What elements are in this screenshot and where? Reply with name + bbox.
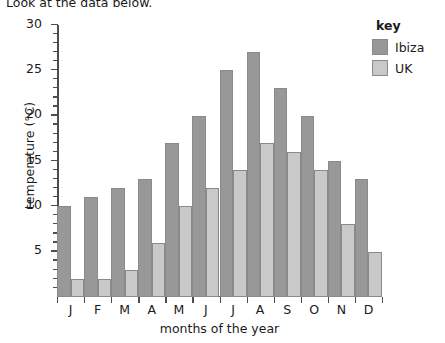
x-axis-title: months of the year [57, 321, 382, 336]
bar-uk-august [260, 143, 274, 297]
bar-ibiza-september [274, 88, 288, 297]
bar-uk-july [233, 170, 247, 297]
x-label-november: N [328, 302, 355, 317]
x-axis-labels: JFMAMJJASOND [57, 302, 382, 320]
bar-uk-december [368, 252, 382, 297]
legend-entries: IbizaUK [372, 39, 445, 76]
bar-ibiza-december [355, 179, 369, 297]
legend-item-uk: UK [372, 60, 445, 76]
plot-area: 51015202530 [57, 25, 382, 297]
bar-uk-february [98, 279, 112, 297]
x-label-may: M [165, 302, 192, 317]
y-tick-label: 20 [8, 105, 42, 122]
legend-label-ibiza: Ibiza [395, 40, 424, 55]
bar-uk-may [179, 206, 193, 297]
bar-uk-october [314, 170, 328, 297]
y-tick-label: 30 [8, 15, 42, 32]
x-tick [382, 297, 383, 303]
x-label-april: A [138, 302, 165, 317]
x-label-september: S [274, 302, 301, 317]
y-tick-label: 10 [8, 196, 42, 213]
bar-uk-november [341, 224, 355, 297]
y-tick-label: 15 [8, 151, 42, 168]
legend-label-uk: UK [395, 61, 412, 76]
bar-ibiza-february [84, 197, 98, 297]
bar-ibiza-june [192, 116, 206, 297]
bar-uk-june [206, 188, 220, 297]
x-label-july: J [220, 302, 247, 317]
legend: key IbizaUK [372, 18, 445, 81]
y-tick-label: 25 [8, 60, 42, 77]
bar-ibiza-january [57, 206, 71, 297]
x-label-june: J [192, 302, 219, 317]
legend-swatch-uk [372, 60, 388, 76]
x-label-december: D [355, 302, 382, 317]
bar-ibiza-november [328, 161, 342, 297]
x-label-february: F [84, 302, 111, 317]
x-label-january: J [57, 302, 84, 317]
legend-title: key [376, 18, 445, 33]
bar-ibiza-july [220, 70, 234, 297]
bars-layer [57, 25, 382, 297]
bar-uk-march [125, 270, 139, 297]
bar-chart-figure: temperature (°C) 51015202530 JFMAMJJASON… [0, 18, 445, 343]
legend-item-ibiza: Ibiza [372, 39, 445, 55]
legend-swatch-ibiza [372, 39, 388, 55]
bar-ibiza-april [138, 179, 152, 297]
bar-ibiza-august [247, 52, 261, 297]
bar-ibiza-march [111, 188, 125, 297]
bar-uk-january [71, 279, 85, 297]
x-label-august: A [247, 302, 274, 317]
x-label-october: O [301, 302, 328, 317]
x-label-march: M [111, 302, 138, 317]
intro-text: Look at the data below. [6, 0, 152, 10]
y-tick-label: 5 [8, 241, 42, 258]
bar-uk-april [152, 243, 166, 297]
bar-ibiza-may [165, 143, 179, 297]
bar-ibiza-october [301, 116, 315, 297]
bar-uk-september [287, 152, 301, 297]
